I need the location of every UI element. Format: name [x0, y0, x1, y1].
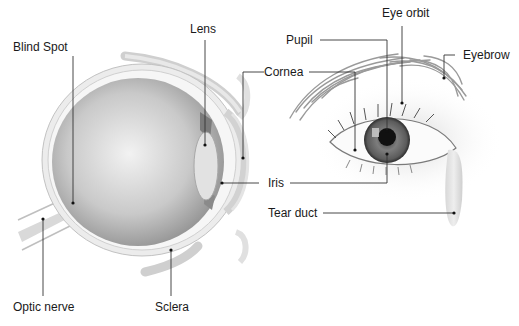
label-eyebrow: Eyebrow: [463, 48, 510, 62]
label-eye-orbit: Eye orbit: [382, 6, 429, 20]
external-eye: [290, 54, 503, 226]
cross-section-eye: [18, 56, 248, 272]
label-tear-duct: Tear duct: [268, 206, 317, 220]
label-cornea: Cornea: [264, 65, 303, 79]
illustration: [0, 0, 519, 326]
label-lens: Lens: [190, 22, 216, 36]
eye-anatomy-diagram: Blind Spot Lens Cornea Pupil Eye orbit E…: [0, 0, 519, 326]
label-iris: Iris: [268, 176, 284, 190]
label-pupil: Pupil: [286, 33, 313, 47]
label-sclera: Sclera: [155, 300, 189, 314]
label-blind-spot: Blind Spot: [13, 40, 68, 54]
label-optic-nerve: Optic nerve: [13, 300, 74, 314]
